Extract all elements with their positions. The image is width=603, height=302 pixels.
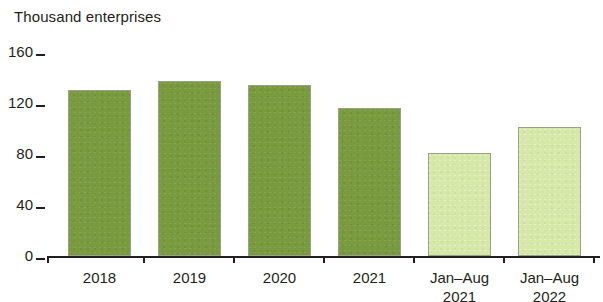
y-axis-tick-mark [36, 258, 45, 260]
y-axis-tick-label: 120 [8, 94, 33, 112]
y-axis-tick: 40 [0, 196, 47, 214]
x-axis-label-jan-aug-2021: Jan–Aug2021 [416, 268, 503, 302]
y-axis-tick: 80 [0, 145, 47, 163]
y-axis-tick-label: 80 [16, 145, 33, 163]
y-axis-tick-mark [36, 105, 45, 107]
y-axis-tick: 0 [0, 247, 47, 265]
y-axis-tick: 120 [0, 94, 47, 112]
y-axis-tick-mark [36, 54, 45, 56]
y-axis-tick: 160 [0, 43, 47, 61]
x-axis-label-2021: 2021 [326, 268, 413, 287]
x-axis-tick-mark [413, 258, 415, 263]
x-axis-label-line1: 2018 [83, 269, 116, 286]
bar-2018 [68, 90, 131, 256]
y-axis-tick-label: 160 [8, 43, 33, 61]
y-axis-tick-label: 40 [16, 196, 33, 214]
x-axis-label-line2: 2022 [506, 287, 593, 302]
x-axis-tick-mark [593, 258, 595, 263]
y-axis-tick-mark [36, 207, 45, 209]
x-axis-label-2020: 2020 [236, 268, 323, 287]
x-axis-tick-mark [143, 258, 145, 263]
y-axis-tick-mark [36, 156, 45, 158]
x-axis-tick-mark [323, 258, 325, 263]
bar-chart-figure: Thousand enterprises 16012080400 2018201… [0, 0, 603, 302]
x-axis-label-line2: 2021 [416, 287, 503, 302]
x-axis-tick-mark [47, 258, 49, 263]
bar-jan-aug-2021 [428, 153, 491, 256]
bar-2019 [158, 81, 221, 256]
x-axis-label-line1: 2020 [263, 269, 296, 286]
x-axis-label-2018: 2018 [56, 268, 143, 287]
x-axis-label-line1: 2019 [173, 269, 206, 286]
bar-jan-aug-2022 [518, 127, 581, 256]
y-axis-tick-label: 0 [25, 247, 33, 265]
x-axis-label-line1: Jan–Aug [520, 269, 579, 286]
bar-2021 [338, 108, 401, 256]
x-axis-label-2019: 2019 [146, 268, 233, 287]
x-axis-tick-mark [503, 258, 505, 263]
x-axis-label-jan-aug-2022: Jan–Aug2022 [506, 268, 593, 302]
x-axis-label-line1: 2021 [353, 269, 386, 286]
x-axis-label-line1: Jan–Aug [430, 269, 489, 286]
plot-area: 16012080400 2018201920202021Jan–Aug2021J… [0, 0, 603, 302]
bar-2020 [248, 85, 311, 256]
x-axis-tick-mark [233, 258, 235, 263]
